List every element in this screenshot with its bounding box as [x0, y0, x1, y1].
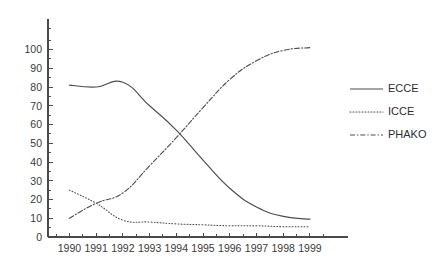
chart-legend: ECCEICCEPHAKO [350, 82, 427, 140]
x-tick-label: 1995 [191, 242, 215, 254]
data-series [69, 48, 310, 227]
y-tick-label: 100 [24, 43, 42, 55]
legend-label-icce: ICCE [388, 105, 414, 117]
y-axis-tick-labels: 0102030405060708090100 [24, 43, 42, 243]
y-tick-label: 40 [30, 156, 42, 168]
x-tick-label: 1990 [58, 242, 82, 254]
x-tick-label: 1991 [84, 242, 108, 254]
y-axis-ticks [48, 29, 53, 237]
x-tick-label: 1999 [298, 242, 322, 254]
legend-label-phako: PHAKO [388, 128, 427, 140]
series-line-icce [69, 190, 310, 227]
x-tick-label: 1996 [218, 242, 242, 254]
y-tick-label: 20 [30, 193, 42, 205]
legend-label-ecce: ECCE [388, 82, 419, 94]
chart-container: 0102030405060708090100 19901991199219931… [0, 0, 445, 265]
x-tick-label: 1993 [138, 242, 162, 254]
series-line-phako [69, 48, 310, 219]
y-tick-label: 80 [30, 81, 42, 93]
x-axis-ticks [56, 233, 323, 238]
plot-area: 0102030405060708090100 19901991199219931… [24, 19, 348, 254]
y-tick-label: 0 [36, 231, 42, 243]
x-axis-tick-labels: 1990199119921993199419951996199719981999 [58, 242, 322, 254]
y-tick-label: 30 [30, 175, 42, 187]
y-tick-label: 90 [30, 62, 42, 74]
y-tick-label: 70 [30, 100, 42, 112]
x-tick-label: 1998 [272, 242, 296, 254]
y-tick-label: 60 [30, 118, 42, 130]
x-tick-label: 1997 [245, 242, 269, 254]
line-chart: 0102030405060708090100 19901991199219931… [0, 0, 445, 265]
x-tick-label: 1992 [111, 242, 135, 254]
x-tick-label: 1994 [165, 242, 189, 254]
series-line-ecce [69, 81, 310, 219]
y-tick-label: 10 [30, 212, 42, 224]
y-tick-label: 50 [30, 137, 42, 149]
